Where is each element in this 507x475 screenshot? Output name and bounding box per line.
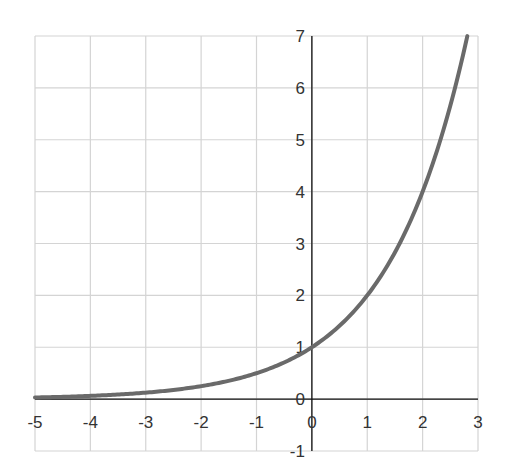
x-tick-label: -2	[194, 413, 209, 432]
x-tick-label: -3	[138, 413, 153, 432]
chart: -5-4-3-2-10123 -101234567	[0, 0, 507, 475]
y-tick-label: 4	[295, 183, 304, 202]
x-tick-label: -1	[249, 413, 264, 432]
x-tick-label: 1	[363, 413, 372, 432]
x-tick-label: -5	[27, 413, 42, 432]
x-tick-label: 0	[307, 413, 316, 432]
y-tick-label: 2	[295, 286, 304, 305]
x-tick-labels: -5-4-3-2-10123	[27, 413, 482, 432]
y-tick-label: 7	[295, 27, 304, 46]
y-tick-label: -1	[290, 442, 305, 461]
y-tick-label: 5	[295, 131, 304, 150]
x-tick-label: 3	[473, 413, 482, 432]
gridlines	[35, 36, 478, 451]
y-tick-label: 6	[295, 79, 304, 98]
exponential-curve	[35, 36, 467, 397]
y-tick-label: 3	[295, 235, 304, 254]
x-tick-label: 2	[418, 413, 427, 432]
x-tick-label: -4	[83, 413, 98, 432]
y-tick-label: 0	[295, 390, 304, 409]
